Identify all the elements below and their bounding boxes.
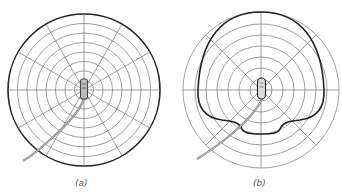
caption-a: (a) xyxy=(75,178,88,188)
polar-diagrams xyxy=(0,0,342,195)
caption-b: (b) xyxy=(253,178,266,188)
